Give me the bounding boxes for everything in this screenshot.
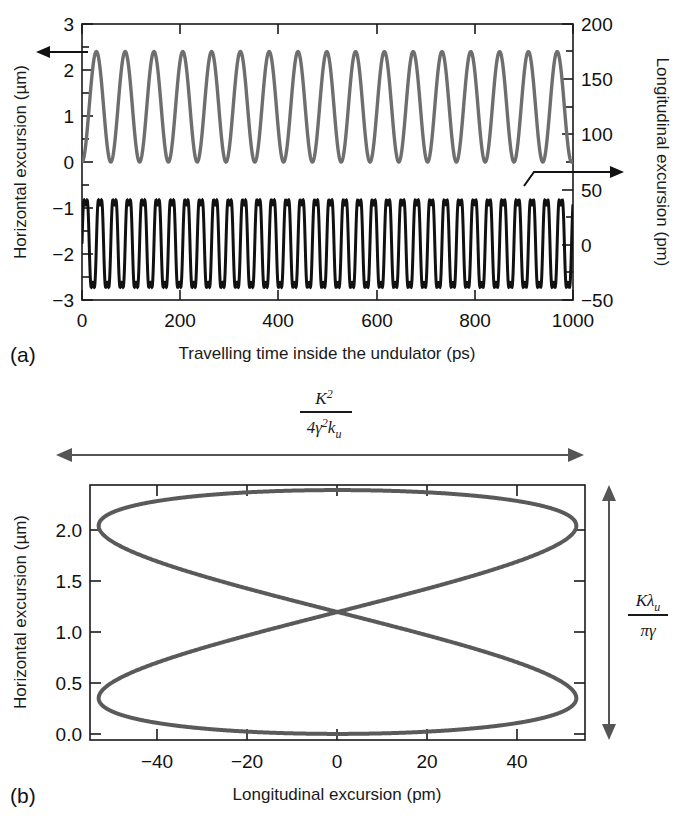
- panel-a-xtick-0: 0: [77, 310, 88, 331]
- panel-b-ytick-0_5: 0.5: [56, 673, 82, 694]
- panel-a-ytick-right-50: 50: [581, 180, 602, 201]
- panel-a-tag: (a): [10, 343, 36, 366]
- panel-a-ylabel-left: Horizontal excursion (µm): [11, 65, 30, 259]
- panel-b-xtick-0: 0: [332, 751, 343, 772]
- panel-b-xtick-20: 20: [416, 751, 437, 772]
- panel-b-ytick-1_5: 1.5: [56, 571, 82, 592]
- formula-right-lambda-sub: u: [654, 600, 660, 614]
- panel-a-ytick-right-150: 150: [581, 69, 613, 90]
- panel-b-xlabel: Longitudinal excursion (pm): [233, 785, 442, 804]
- panel-a-xtick-200: 200: [164, 310, 196, 331]
- panel-a-ytick-1: 1: [63, 106, 74, 127]
- panel-a-xlabel: Travelling time inside the undulator (ps…: [178, 344, 475, 363]
- panel-a-xtick-600: 600: [361, 310, 393, 331]
- panel-b-ytick-1_0: 1.0: [56, 622, 82, 643]
- panel-a-xtick-800: 800: [459, 310, 491, 331]
- panel-b-ytick-2_0: 2.0: [56, 520, 82, 541]
- panel-a-ytick-0: 0: [63, 152, 74, 173]
- panel-a-ytick-2: 2: [63, 60, 74, 81]
- undulator-trajectory-figure: 3 2 1 0 −1 −2 −3 200 150 100 50 0 −50: [0, 0, 681, 829]
- panel-a-ytick-right-0: 0: [581, 235, 592, 256]
- panel-a-xtick-1000: 1000: [552, 310, 594, 331]
- panel-a-ytick-neg3: −3: [52, 290, 74, 311]
- formula-top-den-k-sub: u: [335, 427, 341, 441]
- panel-a-ytick-neg2: −2: [52, 244, 74, 265]
- panel-a-ytick-right-200: 200: [581, 14, 613, 35]
- formula-top-numerator-sup: 2: [327, 387, 333, 401]
- svg-text:πγ: πγ: [640, 621, 657, 640]
- panel-a-ylabel-right: Longitudinal excursion (pm): [653, 58, 672, 267]
- panel-a-xtick-400: 400: [262, 310, 294, 331]
- panel-b-xtick-neg40: −40: [141, 751, 173, 772]
- panel-b-ylabel: Horizontal excursion (µm): [11, 515, 30, 709]
- panel-b-xtick-40: 40: [506, 751, 527, 772]
- formula-right-lambda: λ: [646, 591, 654, 610]
- panel-a-ytick-right-100: 100: [581, 124, 613, 145]
- panel-b-tag: (b): [10, 784, 36, 807]
- panel-a-ytick-right-neg50: −50: [581, 290, 613, 311]
- panel-a-ytick-3: 3: [63, 14, 74, 35]
- panel-b-xtick-neg20: −20: [231, 751, 263, 772]
- panel-b-ytick-0: 0.0: [56, 724, 82, 745]
- panel-a-ytick-neg1: −1: [52, 198, 74, 219]
